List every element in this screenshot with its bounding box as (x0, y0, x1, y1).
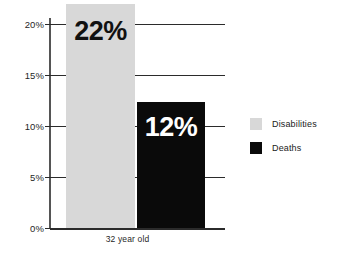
legend-swatch-disabilities-icon (250, 118, 262, 130)
x-axis-baseline (50, 228, 225, 230)
y-tick-label-20: 20% (25, 19, 44, 30)
y-tick-label-5: 5% (30, 172, 44, 183)
legend-label-deaths: Deaths (272, 143, 301, 153)
plot-area: 22% 12% (50, 24, 225, 228)
bar-value-disabilities: 22% (66, 18, 135, 45)
y-tick-label-10: 10% (25, 121, 44, 132)
tick-mark-5 (45, 177, 51, 178)
legend-item-disabilities[interactable]: Disabilities (250, 112, 317, 136)
tick-mark-10 (45, 126, 51, 127)
y-tick-label-0: 0% (30, 223, 44, 234)
bar-deaths[interactable]: 12% (137, 102, 205, 228)
legend-label-disabilities: Disabilities (272, 119, 317, 129)
bar-value-deaths: 12% (137, 114, 205, 141)
bar-chart: 20% 15% 10% 5% 0% 22% 12% 32 year old (0, 0, 343, 262)
bar-disabilities[interactable]: 22% (66, 4, 135, 228)
legend-item-deaths[interactable]: Deaths (250, 136, 317, 160)
legend: Disabilities Deaths (250, 112, 317, 160)
tick-mark-20 (45, 24, 51, 25)
legend-swatch-deaths-icon (250, 142, 262, 154)
tick-mark-15 (45, 75, 51, 76)
y-axis-labels: 20% 15% 10% 5% 0% (0, 0, 44, 262)
y-tick-label-15: 15% (25, 70, 44, 81)
x-axis-category-label: 32 year old (50, 234, 205, 244)
